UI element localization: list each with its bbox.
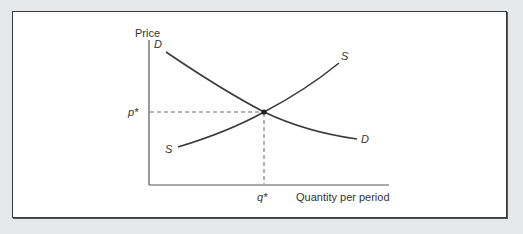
figure-stage: Price D S D S p* q* Quantity per period	[0, 0, 523, 234]
equilibrium-quantity-label: q*	[257, 191, 268, 203]
supply-label-top: S	[341, 50, 349, 62]
supply-demand-diagram: Price D S D S p* q* Quantity per period	[0, 0, 523, 234]
equilibrium-point	[261, 109, 266, 114]
demand-label-top: D	[154, 38, 162, 50]
demand-curve	[166, 52, 357, 139]
equilibrium-price-label: p*	[127, 106, 139, 118]
x-axis-label: Quantity per period	[296, 191, 390, 203]
demand-label-bottom: D	[361, 133, 369, 145]
supply-label-bottom: S	[165, 143, 173, 155]
